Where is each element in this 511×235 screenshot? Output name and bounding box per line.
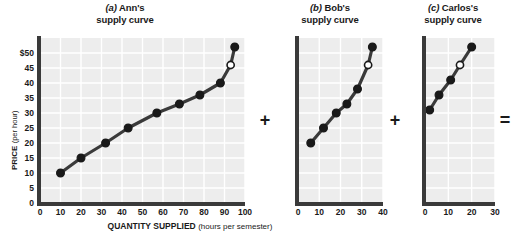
panel-bob-title: (b) Bob's supply curve [275, 2, 385, 26]
ann-point-4 [153, 109, 161, 117]
bob-xtick-1: 10 [315, 207, 324, 217]
operator-plus-1: + [260, 111, 271, 129]
ann-point-1 [77, 154, 85, 162]
bob-point-1 [320, 124, 328, 132]
panel-bob-title-line2: supply curve [301, 14, 358, 25]
ann-point-5 [176, 100, 184, 108]
bob-point-0 [307, 139, 315, 147]
ann-ytick-10: 0 [4, 198, 34, 208]
panel-bob-title-letter: (b) [310, 2, 322, 13]
carlos-xtick-0: 0 [423, 207, 428, 217]
carlos-point-4 [468, 43, 476, 51]
carlos-xtick-3: 30 [490, 207, 499, 217]
ann-xtick-8: 80 [199, 207, 208, 217]
panel-ann-title-letter: (a) [105, 2, 116, 13]
ann-point-7 [217, 79, 225, 87]
ann-x-axis [37, 202, 245, 206]
ann-ytick-2: 40 [4, 78, 34, 88]
carlos-curve-svg [425, 38, 495, 203]
panel-bob-title-rest: Bob's [322, 2, 350, 13]
panel-carlos-title-letter: (c) [428, 2, 439, 13]
panel-ann-title: (a) Ann's supply curve [0, 2, 250, 26]
ann-ytick-6: 20 [4, 138, 34, 148]
ann-ytick-8: 10 [4, 168, 34, 178]
bob-point-4 [354, 85, 362, 93]
bob-data-points [307, 43, 376, 147]
carlos-point-1 [435, 91, 443, 99]
ann-ytick-9: 5 [4, 183, 34, 193]
panel-ann: (a) Ann's supply curve PRICE (per hour) … [0, 0, 250, 235]
panel-ann-title-line2: supply curve [96, 14, 153, 25]
carlos-point-2 [447, 76, 455, 84]
bob-xtick-3: 30 [357, 207, 366, 217]
ann-xtick-7: 70 [179, 207, 188, 217]
operator-plus-2: + [390, 111, 401, 129]
ann-xtick-10: 100 [238, 207, 252, 217]
panel-carlos-title-line2: supply curve [424, 14, 481, 25]
ann-point-8 [227, 61, 234, 68]
bob-point-6 [368, 43, 376, 51]
x-axis-title-sub: (hours per semester) [198, 222, 272, 231]
carlos-xtick-2: 20 [467, 207, 476, 217]
ann-xtick-4: 40 [117, 207, 126, 217]
panel-bob: (b) Bob's supply curve 010203040 [275, 0, 385, 235]
ann-y-axis [37, 36, 41, 205]
x-axis-title-main: QUANTITY SUPPLIED [108, 221, 196, 231]
ann-curve-svg [40, 38, 245, 203]
ann-point-9 [231, 43, 239, 51]
ann-data-points [57, 43, 239, 177]
carlos-point-0 [426, 106, 434, 114]
x-axis-title: QUANTITY SUPPLIED (hours per semester) [60, 221, 320, 231]
operator-equals: = [500, 111, 511, 129]
ann-xtick-0: 0 [38, 207, 43, 217]
carlos-x-axis [422, 202, 495, 206]
ann-point-2 [102, 139, 110, 147]
ann-ytick-7: 15 [4, 153, 34, 163]
panel-carlos-title-rest: Carlos's [439, 2, 478, 13]
carlos-point-3 [456, 61, 463, 68]
bob-plot-area [298, 38, 383, 203]
ann-point-3 [124, 124, 132, 132]
bob-y-axis [295, 36, 299, 205]
panel-carlos-title: (c) Carlos's supply curve [405, 2, 501, 26]
panel-carlos: (c) Carlos's supply curve 0102030 [405, 0, 501, 235]
bob-point-2 [332, 109, 340, 117]
ann-xtick-1: 10 [56, 207, 65, 217]
ann-ytick-3: 35 [4, 93, 34, 103]
supply-curves-figure: (a) Ann's supply curve PRICE (per hour) … [0, 0, 511, 235]
ann-ytick-0: $50 [4, 48, 34, 58]
bob-xtick-0: 0 [296, 207, 301, 217]
ann-ytick-5: 25 [4, 123, 34, 133]
bob-xtick-2: 20 [336, 207, 345, 217]
bob-xtick-4: 40 [378, 207, 387, 217]
ann-point-0 [57, 169, 65, 177]
bob-point-5 [365, 61, 372, 68]
carlos-y-axis [422, 36, 426, 205]
bob-curve-svg [298, 38, 383, 203]
ann-ytick-1: 45 [4, 63, 34, 73]
panel-ann-title-rest: Ann's [117, 2, 145, 13]
ann-xtick-5: 50 [138, 207, 147, 217]
ann-xtick-3: 30 [97, 207, 106, 217]
bob-point-3 [343, 100, 351, 108]
ann-ytick-4: 30 [4, 108, 34, 118]
ann-supply-line [61, 47, 235, 173]
carlos-xtick-1: 10 [444, 207, 453, 217]
ann-xtick-2: 20 [76, 207, 85, 217]
ann-point-6 [196, 91, 204, 99]
carlos-plot-area [425, 38, 495, 203]
bob-x-axis [295, 202, 383, 206]
ann-plot-area [40, 38, 245, 203]
ann-xtick-6: 60 [158, 207, 167, 217]
ann-xtick-9: 90 [220, 207, 229, 217]
